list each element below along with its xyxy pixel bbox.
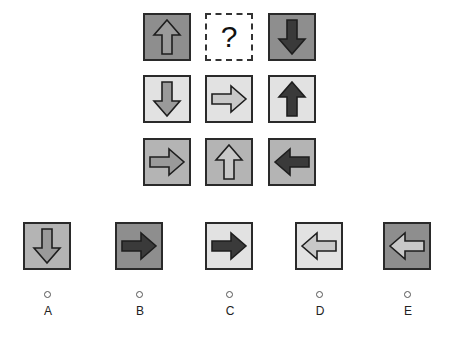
option-a-radio[interactable] [44,291,51,298]
arrow-down-icon [270,15,314,59]
option-e-image [383,222,431,270]
grid-cell-r2c1 [143,75,191,123]
option-label: B [130,304,150,318]
arrow-down-icon [25,224,69,268]
grid-cell-r1c1 [143,13,191,61]
option-d-radio[interactable] [316,291,323,298]
arrow-down-icon [145,77,189,121]
option-label: D [310,304,330,318]
arrow-right-icon [145,140,189,184]
grid-cell-r3c3 [268,138,316,186]
option-a-image [23,222,71,270]
option-e-radio[interactable] [404,291,411,298]
grid-cell-r2c3 [268,75,316,123]
grid-cell-r3c1 [143,138,191,186]
arrow-right-icon [117,224,161,268]
arrow-left-icon [385,224,429,268]
question-mark: ? [207,15,251,59]
grid-cell-r2c2 [205,75,253,123]
arrow-left-icon [297,224,341,268]
arrow-right-icon [207,224,251,268]
grid-cell-r3c2 [205,138,253,186]
option-label: C [220,304,240,318]
arrow-up-icon [207,140,251,184]
option-c-radio[interactable] [226,291,233,298]
option-b-radio[interactable] [136,291,143,298]
option-label: E [398,304,418,318]
arrow-right-icon [207,77,251,121]
arrow-left-icon [270,140,314,184]
option-label: A [38,304,58,318]
grid-cell-r1c3 [268,13,316,61]
option-c-image [205,222,253,270]
arrow-up-icon [145,15,189,59]
option-b-image [115,222,163,270]
arrow-up-icon [270,77,314,121]
option-d-image [295,222,343,270]
missing-cell: ? [205,13,253,61]
